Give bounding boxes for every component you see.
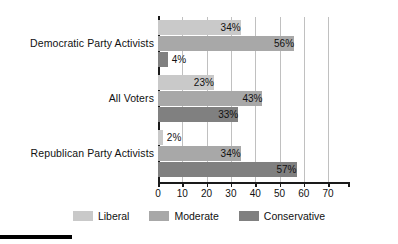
x-tick-70 — [328, 182, 330, 187]
bar-chart: Democratic Party ActivistsAll VotersRepu… — [0, 0, 398, 244]
chart-legend: LiberalModerateConservative — [0, 210, 398, 222]
category-label-0: Democratic Party Activists — [0, 37, 154, 49]
legend-label-conservative: Conservative — [264, 210, 325, 222]
x-tick-label-0: 0 — [148, 188, 168, 199]
bar-value-label: 34% — [158, 20, 245, 35]
legend-swatch-moderate — [149, 211, 169, 221]
x-tick-60 — [304, 182, 306, 187]
x-tick-label-50: 50 — [270, 188, 290, 199]
x-tick-40 — [255, 182, 257, 187]
x-tick-0 — [158, 182, 160, 187]
bar-value-label: 57% — [158, 162, 301, 177]
x-tick-label-40: 40 — [245, 188, 265, 199]
x-tick-label-70: 70 — [318, 188, 338, 199]
legend-item-conservative[interactable]: Conservative — [239, 210, 325, 222]
legend-label-liberal: Liberal — [98, 210, 130, 222]
bar-value-label: 43% — [158, 91, 266, 106]
category-label-1: All Voters — [0, 92, 154, 104]
bar-conservative-0 — [158, 52, 168, 67]
legend-item-liberal[interactable]: Liberal — [73, 210, 130, 222]
x-tick-label-10: 10 — [172, 188, 192, 199]
x-tick-label-30: 30 — [221, 188, 241, 199]
bar-value-label: 56% — [158, 36, 298, 51]
bottom-rule — [0, 235, 72, 239]
x-tick-10 — [182, 182, 184, 187]
category-label-2: Republican Party Activists — [0, 147, 154, 159]
bar-value-label: 23% — [158, 75, 218, 90]
bar-value-label: 33% — [158, 107, 242, 122]
x-axis-line — [158, 182, 350, 184]
legend-swatch-conservative — [239, 211, 259, 221]
bar-value-label: 4% — [168, 52, 186, 67]
legend-label-moderate: Moderate — [174, 210, 218, 222]
x-tick-label-20: 20 — [197, 188, 217, 199]
plot-area: 34%56%4%23%43%33%2%34%57% — [158, 17, 350, 182]
x-tick-50 — [280, 182, 282, 187]
x-tick-30 — [231, 182, 233, 187]
bar-value-label: 2% — [163, 130, 181, 145]
bar-value-label: 34% — [158, 146, 245, 161]
legend-item-moderate[interactable]: Moderate — [149, 210, 218, 222]
legend-swatch-liberal — [73, 211, 93, 221]
x-tick-label-60: 60 — [294, 188, 314, 199]
x-tick-20 — [207, 182, 209, 187]
x-axis-end-cap — [348, 182, 350, 187]
